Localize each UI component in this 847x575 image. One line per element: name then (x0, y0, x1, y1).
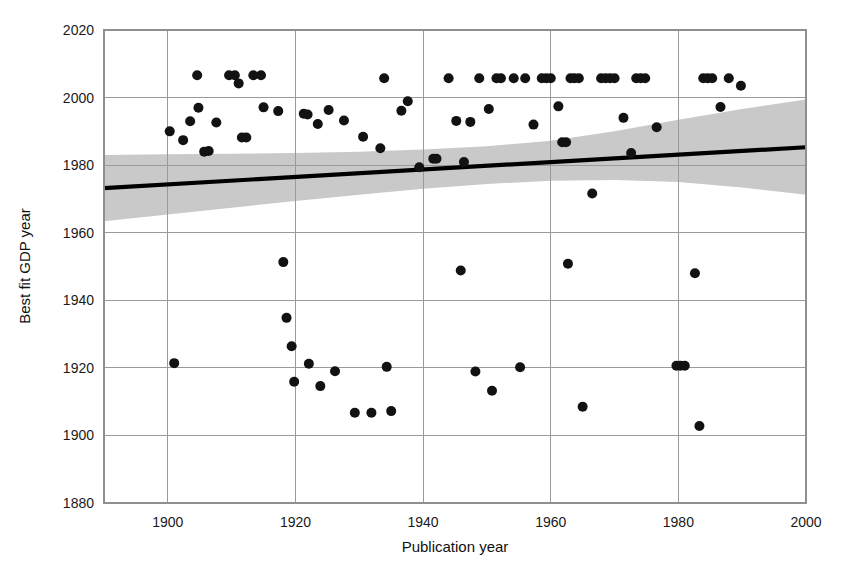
x-tick-label-1980: 1980 (663, 514, 694, 530)
data-point (304, 359, 314, 369)
y-tick-label-2000: 2000 (63, 90, 94, 106)
data-point (515, 362, 525, 372)
data-point (169, 358, 179, 368)
y-tick-label-1940: 1940 (63, 292, 94, 308)
y-tick-label-1920: 1920 (63, 360, 94, 376)
data-point (561, 137, 571, 147)
data-point (487, 386, 497, 396)
data-point (470, 367, 480, 377)
data-point (414, 162, 424, 172)
data-point (287, 341, 297, 351)
data-point (431, 154, 441, 164)
x-tick-label-1960: 1960 (535, 514, 566, 530)
data-point (736, 81, 746, 91)
data-point (465, 117, 475, 127)
data-point (444, 73, 454, 83)
data-point (520, 73, 530, 83)
data-point (563, 259, 573, 269)
data-point (375, 143, 385, 153)
data-point (192, 70, 202, 80)
data-point (185, 116, 195, 126)
y-tick-label-1900: 1900 (63, 427, 94, 443)
x-tick-label-1900: 1900 (152, 514, 183, 530)
data-point (509, 73, 519, 83)
data-point (324, 105, 334, 115)
data-point (724, 73, 734, 83)
data-point (456, 266, 466, 276)
data-point (610, 73, 620, 83)
data-point (313, 119, 323, 129)
x-tick-label-1920: 1920 (280, 514, 311, 530)
data-point (451, 116, 461, 126)
y-tick-label-1980: 1980 (63, 157, 94, 173)
x-tick-label-2000: 2000 (790, 514, 821, 530)
data-point (204, 146, 214, 156)
data-point (715, 102, 725, 112)
data-point (587, 189, 597, 199)
data-point (350, 408, 360, 418)
data-point (273, 106, 283, 116)
data-point (553, 101, 563, 111)
x-axis-title: Publication year (402, 538, 509, 555)
data-point (178, 135, 188, 145)
chart-figure: 190019201940196019802000 188019001920194… (0, 0, 847, 575)
data-point (484, 104, 494, 114)
data-point (330, 366, 340, 376)
data-point (474, 73, 484, 83)
data-point (618, 113, 628, 123)
plot-area-background (104, 30, 806, 503)
data-point (289, 377, 299, 387)
data-point (652, 122, 662, 132)
data-point (211, 118, 221, 128)
data-point (165, 126, 175, 136)
data-point (546, 73, 556, 83)
data-point (459, 157, 469, 167)
data-point (358, 132, 368, 142)
data-point (315, 381, 325, 391)
y-tick-label-1960: 1960 (63, 225, 94, 241)
data-point (529, 120, 539, 130)
data-point (694, 421, 704, 431)
y-tick-label-2020: 2020 (63, 22, 94, 38)
data-point (403, 96, 413, 106)
y-axis-title: Best fit GDP year (16, 208, 33, 324)
data-point (379, 73, 389, 83)
data-point (574, 73, 584, 83)
x-tick-label-1940: 1940 (408, 514, 439, 530)
data-point (366, 408, 376, 418)
data-point (690, 268, 700, 278)
data-point (282, 313, 292, 323)
data-point (234, 78, 244, 88)
data-point (640, 73, 650, 83)
scatter-plot-svg: 190019201940196019802000 188019001920194… (0, 0, 847, 575)
data-point (193, 103, 203, 113)
data-point (256, 70, 266, 80)
data-point (680, 361, 690, 371)
data-point (259, 102, 269, 112)
data-point (626, 148, 636, 158)
data-point (396, 106, 406, 116)
data-point (578, 402, 588, 412)
data-point (241, 132, 251, 142)
data-point (386, 406, 396, 416)
data-point (339, 116, 349, 126)
data-point (496, 73, 506, 83)
y-tick-label-1880: 1880 (63, 495, 94, 511)
data-point (303, 109, 313, 119)
data-point (707, 73, 717, 83)
data-point (382, 362, 392, 372)
data-point (278, 257, 288, 267)
